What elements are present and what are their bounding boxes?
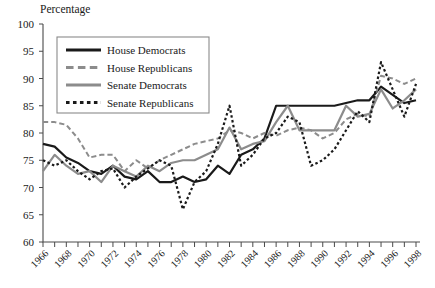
x-axis-tick-label: 1994 (355, 248, 377, 270)
chart-legend: House DemocratsHouse RepublicansSenate D… (57, 37, 209, 113)
x-axis-tick-label: 1998 (401, 248, 423, 270)
x-axis-tick-label: 1982 (215, 248, 237, 270)
y-axis-tick-label: 95 (23, 45, 35, 57)
y-axis-tick-labels: 6065707580859095100 (18, 18, 35, 248)
x-axis-tick-label: 1970 (75, 248, 97, 270)
x-axis-tick-label: 1996 (378, 248, 400, 270)
legend-label-senate-democrats: Senate Democrats (107, 79, 187, 91)
x-axis-tick-label: 1984 (238, 248, 260, 270)
y-axis-tick-label: 85 (23, 100, 35, 112)
y-axis-tick-label: 60 (23, 236, 35, 248)
x-axis-ticks (43, 242, 416, 247)
y-axis-tick-label: 80 (23, 127, 35, 139)
y-axis-ticks (39, 24, 43, 242)
chart-container: Percentage 6065707580859095100 196619681… (0, 0, 435, 288)
x-axis-tick-label: 1992 (332, 248, 354, 270)
x-axis-tick-label: 1974 (122, 248, 144, 270)
x-axis-tick-labels: 1966196819701972197419761978198019821984… (28, 248, 423, 270)
x-axis-tick-label: 1978 (168, 248, 190, 270)
x-axis-tick-label: 1986 (262, 248, 284, 270)
x-axis-tick-label: 1988 (285, 248, 307, 270)
legend-label-house-republicans: House Republicans (107, 62, 192, 74)
y-axis-tick-label: 65 (23, 209, 35, 221)
x-axis-tick-label: 1972 (98, 248, 120, 270)
x-axis-tick-label: 1990 (308, 248, 330, 270)
y-axis-tick-label: 75 (23, 154, 35, 166)
x-axis-tick-label: 1976 (145, 248, 167, 270)
x-axis-tick-label: 1980 (192, 248, 214, 270)
x-axis-tick-label: 1966 (28, 248, 50, 270)
y-axis-tick-label: 90 (23, 73, 35, 85)
y-axis-title: Percentage (40, 3, 90, 16)
legend-label-house-democrats: House Democrats (107, 44, 186, 56)
legend-label-senate-republicans: Senate Republicans (107, 97, 193, 109)
x-axis-tick-label: 1968 (52, 248, 74, 270)
y-axis-tick-label: 100 (18, 18, 35, 30)
y-axis-tick-label: 70 (23, 182, 35, 194)
line-chart: Percentage 6065707580859095100 196619681… (0, 0, 435, 288)
